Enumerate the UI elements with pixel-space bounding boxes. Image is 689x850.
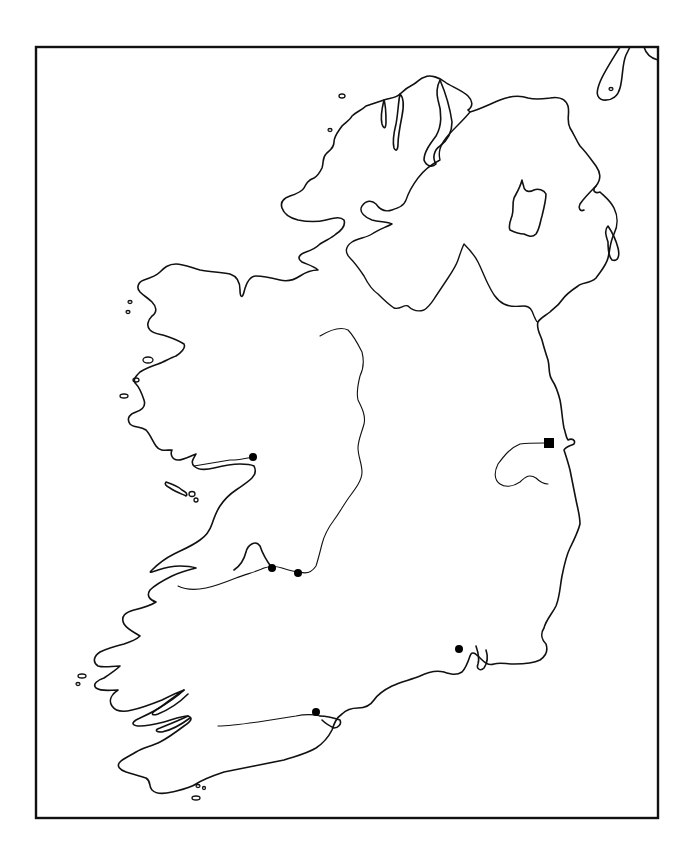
river-shannon: [300, 328, 365, 572]
small-island: [328, 129, 332, 132]
river-liffey: [495, 443, 548, 486]
island: [203, 787, 206, 790]
island: [194, 498, 198, 502]
square-marker: [544, 438, 554, 448]
island: [76, 683, 80, 686]
ni-border: [346, 112, 538, 322]
belfast-lough: [579, 186, 596, 211]
mulroy-inlet: [381, 100, 386, 128]
small-island: [339, 94, 345, 98]
ireland-outline-map: [0, 0, 689, 850]
shannon-estuary: [178, 567, 300, 590]
small-island: [609, 88, 613, 91]
dot-marker: [268, 564, 276, 572]
dot-marker: [294, 569, 302, 577]
island: [128, 301, 132, 304]
shannon-estuary-north: [234, 543, 272, 570]
scotland-coast-corner: [644, 47, 658, 60]
island: [189, 492, 195, 497]
island: [192, 796, 200, 800]
map-container: [0, 0, 689, 850]
strangford-lough: [606, 226, 619, 260]
dot-marker: [312, 708, 320, 716]
dot-marker: [249, 453, 257, 461]
waterford-harbour: [476, 646, 487, 670]
scotland-coast: [597, 47, 630, 100]
river-lee: [218, 715, 320, 727]
island: [143, 357, 153, 363]
lough-swilly: [393, 94, 403, 150]
island: [120, 394, 128, 398]
dot-marker: [455, 645, 463, 653]
island: [196, 785, 200, 788]
lough-neagh: [509, 180, 546, 236]
island: [126, 311, 130, 314]
island: [78, 674, 86, 678]
ireland-coastline: [94, 76, 617, 793]
aran-islands: [165, 482, 187, 496]
lough-foyle: [424, 80, 452, 166]
